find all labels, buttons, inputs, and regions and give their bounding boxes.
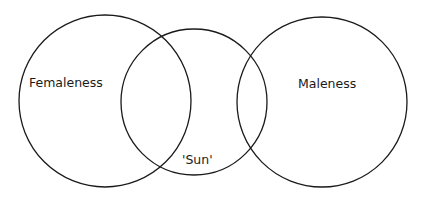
femaleness-circle <box>19 15 191 187</box>
maleness-circle <box>237 17 407 187</box>
maleness-label: Maleness <box>298 76 356 91</box>
venn-diagram: Femaleness 'Sun' Maleness <box>0 0 424 202</box>
sun-label: 'Sun' <box>182 152 213 167</box>
femaleness-label: Femaleness <box>29 75 103 90</box>
